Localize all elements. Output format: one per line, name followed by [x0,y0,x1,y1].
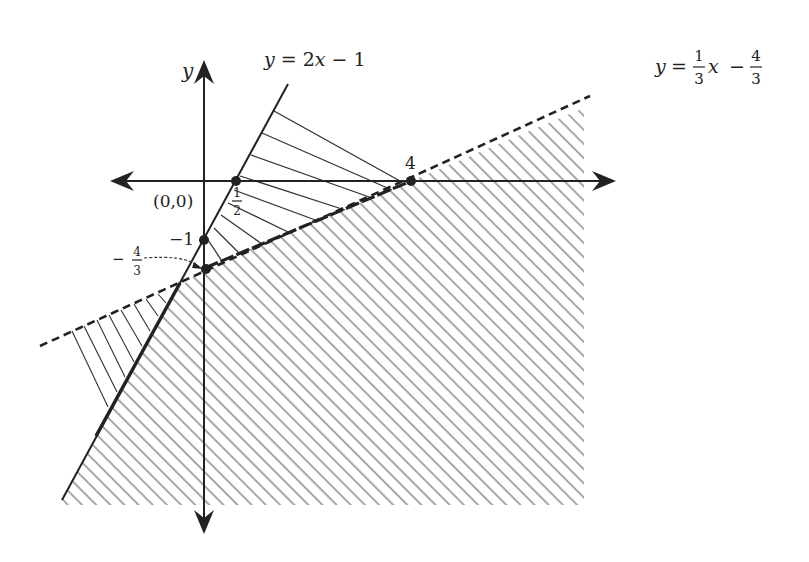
four-label: 4 [405,153,416,173]
line1-label: y = 2x − 1 [263,48,366,70]
y-axis-label: y [181,59,194,83]
point-minus-four-thirds [201,264,211,274]
svg-text:2: 2 [233,204,241,218]
graph-canvas: y y = 2x − 1 y = 1 3 x − 4 3 (0,0) 1 2 −… [0,0,809,562]
svg-text:=: = [671,55,687,77]
line2-label: y = 1 3 x − 4 3 [654,47,762,88]
svg-text:3: 3 [751,70,761,88]
gray-hatch-region [0,0,809,562]
point-four [406,176,416,186]
svg-text:4: 4 [751,47,761,65]
svg-text:−: − [112,250,125,268]
svg-text:y: y [654,55,666,77]
svg-text:4: 4 [133,245,141,259]
point-minus-one [199,235,209,245]
svg-text:−: − [729,55,745,77]
origin-label: (0,0) [153,191,193,211]
point-half [231,176,241,186]
svg-text:3: 3 [133,264,141,278]
svg-text:1: 1 [233,186,241,200]
svg-text:1: 1 [694,47,704,65]
inequality-graph: y y = 2x − 1 y = 1 3 x − 4 3 (0,0) 1 2 −… [0,0,809,562]
svg-text:x: x [708,55,719,77]
half-label: 1 2 [232,186,242,218]
minus-one-label: −1 [169,229,194,249]
svg-text:3: 3 [694,70,704,88]
minus-four-thirds-label: − 4 3 [112,245,142,278]
